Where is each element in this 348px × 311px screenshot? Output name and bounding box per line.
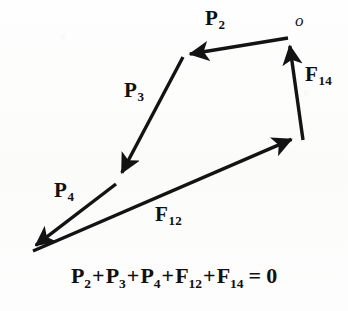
vector-label-p4-subscript: 4	[68, 189, 75, 204]
equation-term-f12-symbol: F	[175, 263, 188, 288]
vector-label-p4: P4	[54, 180, 74, 201]
equation-term-p3-symbol: P	[106, 263, 119, 288]
vector-label-p2-symbol: P	[205, 6, 218, 30]
origin-label-o: o	[295, 12, 304, 29]
vector-label-f14-subscript: 14	[319, 73, 332, 88]
equation-equals-sign: =	[244, 263, 267, 288]
vector-label-p3: P3	[124, 80, 144, 101]
vector-arrow-p2	[190, 38, 288, 54]
equation-term-f12: F12	[175, 263, 202, 288]
vector-arrow-p4	[36, 184, 116, 245]
vector-label-f12-subscript: 12	[169, 213, 182, 228]
equation-term-p2-subscript: 2	[84, 276, 91, 291]
equation-term-f12-subscript: 12	[189, 276, 203, 291]
equation-term-p4-symbol: P	[140, 263, 153, 288]
equation-term-p3: P3	[106, 263, 126, 288]
vector-label-p4-symbol: P	[54, 178, 67, 202]
vector-label-p3-subscript: 3	[138, 89, 145, 104]
vector-label-f14-symbol: F	[305, 62, 318, 86]
equation-term-p2: P2	[71, 263, 91, 288]
vector-label-f12: F12	[155, 204, 181, 225]
equation-term-p2-symbol: P	[71, 263, 84, 288]
vector-label-p3-symbol: P	[124, 78, 137, 102]
vector-label-p2-subscript: 2	[219, 17, 226, 32]
vector-diagram-figure: o P2 P3 P4 F12 F14 P2+P3+P4+F12+F14=0	[0, 0, 348, 311]
equation-term-f14-symbol: F	[217, 263, 230, 288]
equation-operator-3: +	[161, 263, 176, 288]
equation-operator-2: +	[126, 263, 141, 288]
equation-term-p4: P4	[140, 263, 160, 288]
vector-label-p2: P2	[205, 8, 225, 29]
vector-label-f14: F14	[305, 64, 331, 85]
closure-equation: P2+P3+P4+F12+F14=0	[0, 264, 348, 288]
equation-operator-1: +	[91, 263, 106, 288]
vector-arrow-f14	[290, 46, 303, 140]
equation-result: 0	[266, 263, 277, 288]
equation-term-p3-subscript: 3	[119, 276, 126, 291]
equation-term-f14-subscript: 14	[230, 276, 244, 291]
equation-operator-4: +	[202, 263, 217, 288]
vector-arrow-p3	[122, 57, 183, 173]
equation-term-p4-subscript: 4	[154, 276, 161, 291]
vector-label-f12-symbol: F	[155, 202, 168, 226]
equation-term-f14: F14	[217, 263, 244, 288]
